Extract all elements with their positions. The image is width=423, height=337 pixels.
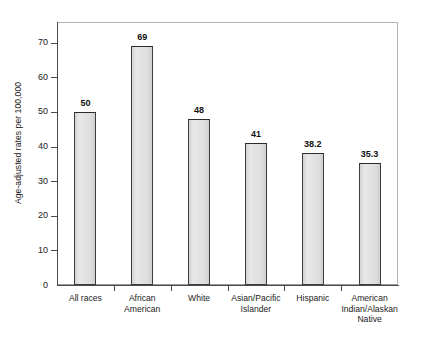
bar-value-label: 50 (60, 99, 110, 108)
bar-value-label: 41 (231, 130, 281, 139)
y-axis-tick (51, 112, 57, 113)
y-axis-tick (51, 43, 57, 44)
bar-value-label: 48 (174, 106, 224, 115)
y-axis-tick (51, 147, 57, 148)
y-axis-tick (51, 77, 57, 78)
x-axis-tick (114, 286, 115, 291)
y-axis-tick-label: 40 (22, 142, 48, 151)
bar (188, 119, 210, 285)
bar (131, 46, 153, 285)
x-axis-category-line: Islander (216, 304, 296, 315)
y-axis-line (57, 22, 58, 286)
x-axis-tick (341, 286, 342, 291)
x-axis-category-label: AmericanIndian/AlaskanNative (330, 293, 410, 325)
bar-value-label: 38.2 (288, 140, 338, 149)
x-axis-category-line: Native (330, 314, 410, 325)
x-axis-tick (284, 286, 285, 291)
y-axis-tick (51, 250, 57, 251)
y-axis-tick-label: 30 (22, 177, 48, 186)
bar (359, 163, 381, 285)
bar (245, 143, 267, 285)
bar-value-label: 35.3 (345, 150, 395, 159)
y-axis-tick (51, 216, 57, 217)
x-axis-tick (228, 286, 229, 291)
bar (302, 153, 324, 285)
y-axis-tick-label: 0 (22, 281, 48, 290)
x-axis-tick (171, 286, 172, 291)
bar (74, 112, 96, 285)
y-axis-tick-label: 60 (22, 73, 48, 82)
bar-value-label: 69 (117, 33, 167, 42)
x-axis-category-line: American (330, 293, 410, 304)
x-axis-category-line: Indian/Alaskan (330, 304, 410, 315)
y-axis-tick-label: 50 (22, 107, 48, 116)
y-axis-tick-label: 20 (22, 211, 48, 220)
x-axis-category-line: American (102, 304, 182, 315)
y-axis-tick-label: 10 (22, 246, 48, 255)
bar-chart-figure: Age-adjusted rates per 100,000 010203040… (0, 0, 423, 337)
y-axis-tick (51, 181, 57, 182)
y-axis-tick-label: 70 (22, 38, 48, 47)
